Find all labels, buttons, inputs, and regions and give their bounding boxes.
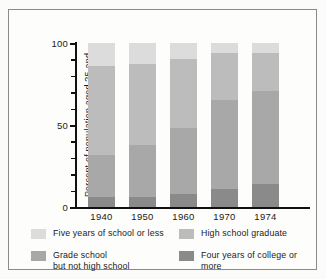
bar-1974[interactable] — [252, 43, 279, 207]
bar-segment[interactable] — [88, 66, 115, 155]
y-axis-tick — [71, 191, 75, 193]
bar-segment[interactable] — [170, 128, 197, 194]
bar-segment[interactable] — [129, 145, 156, 197]
bar-segment[interactable] — [252, 91, 279, 184]
bar-segment[interactable] — [211, 53, 238, 101]
legend-item[interactable]: Grade school but not high school — [31, 250, 130, 271]
bar-segment[interactable] — [170, 194, 197, 207]
bar-segment[interactable] — [129, 64, 156, 144]
bar-segment[interactable] — [129, 197, 156, 207]
legend-label: Five years of school or less — [53, 228, 164, 239]
plot-area: Percent of population aged 25 and older … — [75, 43, 295, 207]
legend-swatch-icon — [31, 229, 46, 239]
legend-label: Four years of college or more — [201, 250, 311, 271]
chart-legend: Five years of school or lessHigh school … — [31, 228, 311, 274]
y-axis-tick-label: 100 — [52, 38, 68, 49]
bar-segment[interactable] — [88, 197, 115, 207]
x-axis-label-1974: 1974 — [254, 211, 276, 222]
bar-segment[interactable] — [252, 43, 279, 53]
bar-1970[interactable] — [211, 43, 238, 207]
chart-page: Percent of population aged 25 and older … — [0, 0, 326, 279]
y-axis-tick — [71, 109, 75, 111]
legend-label: Grade school but not high school — [53, 250, 130, 271]
x-axis-label-1940: 1940 — [90, 211, 112, 222]
y-axis-tick-label: 50 — [57, 120, 68, 131]
bar-segment[interactable] — [88, 43, 115, 66]
legend-swatch-icon — [31, 251, 46, 261]
bar-1940[interactable] — [88, 43, 115, 207]
legend-label: High school graduate — [201, 228, 287, 239]
legend-swatch-icon — [179, 251, 194, 261]
chart-frame: Percent of population aged 25 and older … — [8, 9, 317, 270]
legend-item[interactable]: Four years of college or more — [179, 250, 311, 271]
x-axis-label-1970: 1970 — [213, 211, 235, 222]
y-axis-tick — [71, 76, 75, 78]
y-axis-tick — [71, 92, 75, 94]
x-axis-label-1950: 1950 — [131, 211, 153, 222]
y-axis-tick-label: 0 — [63, 202, 68, 213]
y-axis-tick — [71, 59, 75, 61]
y-axis-tick — [70, 43, 75, 45]
legend-item[interactable]: High school graduate — [179, 228, 287, 239]
bar-segment[interactable] — [170, 59, 197, 128]
y-axis-tick — [70, 125, 75, 127]
bar-segment[interactable] — [252, 53, 279, 91]
x-axis-label-1960: 1960 — [172, 211, 194, 222]
bar-segment[interactable] — [170, 43, 197, 59]
y-axis-tick — [70, 207, 75, 209]
bar-segment[interactable] — [211, 43, 238, 53]
bar-segment[interactable] — [129, 43, 156, 64]
bar-segment[interactable] — [211, 189, 238, 207]
bar-1950[interactable] — [129, 43, 156, 207]
legend-item[interactable]: Five years of school or less — [31, 228, 164, 239]
bar-segment[interactable] — [88, 155, 115, 198]
y-axis-tick — [71, 174, 75, 176]
bar-segment[interactable] — [252, 184, 279, 207]
bar-1960[interactable] — [170, 43, 197, 207]
x-axis-line — [75, 207, 310, 209]
bar-segment[interactable] — [211, 100, 238, 189]
legend-swatch-icon — [179, 229, 194, 239]
y-axis-tick — [71, 158, 75, 160]
y-axis-tick — [71, 141, 75, 143]
